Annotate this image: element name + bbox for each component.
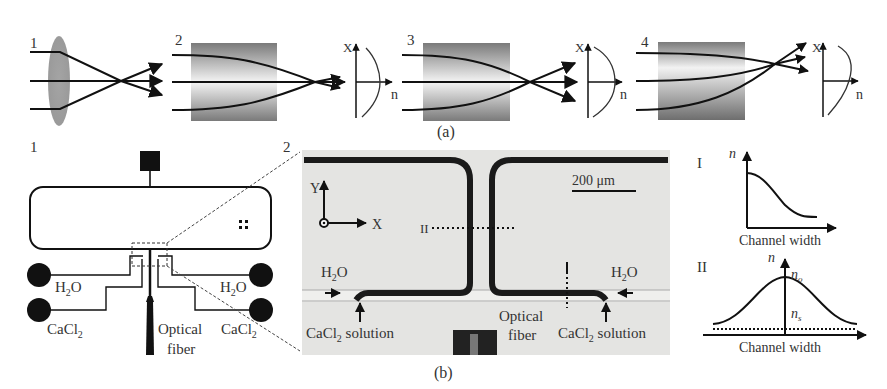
grin-diagram-2: 2 X [172,32,392,121]
section-ii-marker: II [420,221,429,236]
fiber-label-2: fiber [167,341,195,357]
svg-text:II: II [697,259,707,275]
axis-n-label: n [391,87,398,102]
lens-diagram: 1 [30,35,162,126]
grin-diagram-3: 3 X n n [391,32,627,121]
axis-n-label: n [620,87,627,102]
svg-text:n: n [729,146,736,161]
scale-bar-label: 200 μm [572,173,615,188]
svg-text:I: I [697,155,702,171]
axis-x: X [372,217,382,232]
svg-text:CaCl2: CaCl2 [47,321,83,340]
caption-a: (a) [437,123,455,141]
label-1: 1 [30,35,38,51]
inlet-cacl2-right [249,298,273,322]
inlet-cacl2-left [27,298,51,322]
outlet-square [140,151,160,171]
axis-x-label: X [575,40,585,55]
figure: 1 2 X 3 [0,0,887,389]
panel-a: 1 2 X 3 [30,32,863,141]
axis-x-label: X [812,40,822,55]
label-1: 1 [30,139,38,155]
label-4: 4 [641,34,649,50]
fiber-label: Optical [499,308,543,324]
axis-n-label: n [856,87,863,102]
profile-i: I n Channel width [697,146,836,248]
label-2: 2 [175,32,183,48]
inlet-h2o-right [249,263,273,287]
svg-text:H2O: H2O [55,279,82,298]
svg-text:Channel width: Channel width [739,340,821,355]
fiber-label: Optical [158,321,202,337]
micrograph: 2 200 μm Y X II H2O H2O CaC [283,139,670,355]
fiber-label-2: fiber [508,327,536,343]
svg-text:CaCl2: CaCl2 [221,321,257,340]
svg-text:ns: ns [791,306,802,323]
svg-text:H2O: H2O [220,279,247,298]
label-3: 3 [407,32,415,48]
axis-x-label: X [343,40,353,55]
axis-y: Y [310,181,320,196]
profile-ii: II n no ns Channel width [697,250,866,355]
chip-schematic: 1 H2O H2O CaCl2 [27,139,300,357]
inlet-h2o-left [27,263,51,287]
optical-fiber [146,300,154,355]
svg-text:Channel width: Channel width [739,233,821,248]
grin-diagram-4: 4 X n [636,34,863,120]
svg-text:n: n [768,250,775,265]
label-2: 2 [283,139,291,155]
svg-text:no: no [791,267,803,284]
caption-b: (b) [434,364,453,382]
